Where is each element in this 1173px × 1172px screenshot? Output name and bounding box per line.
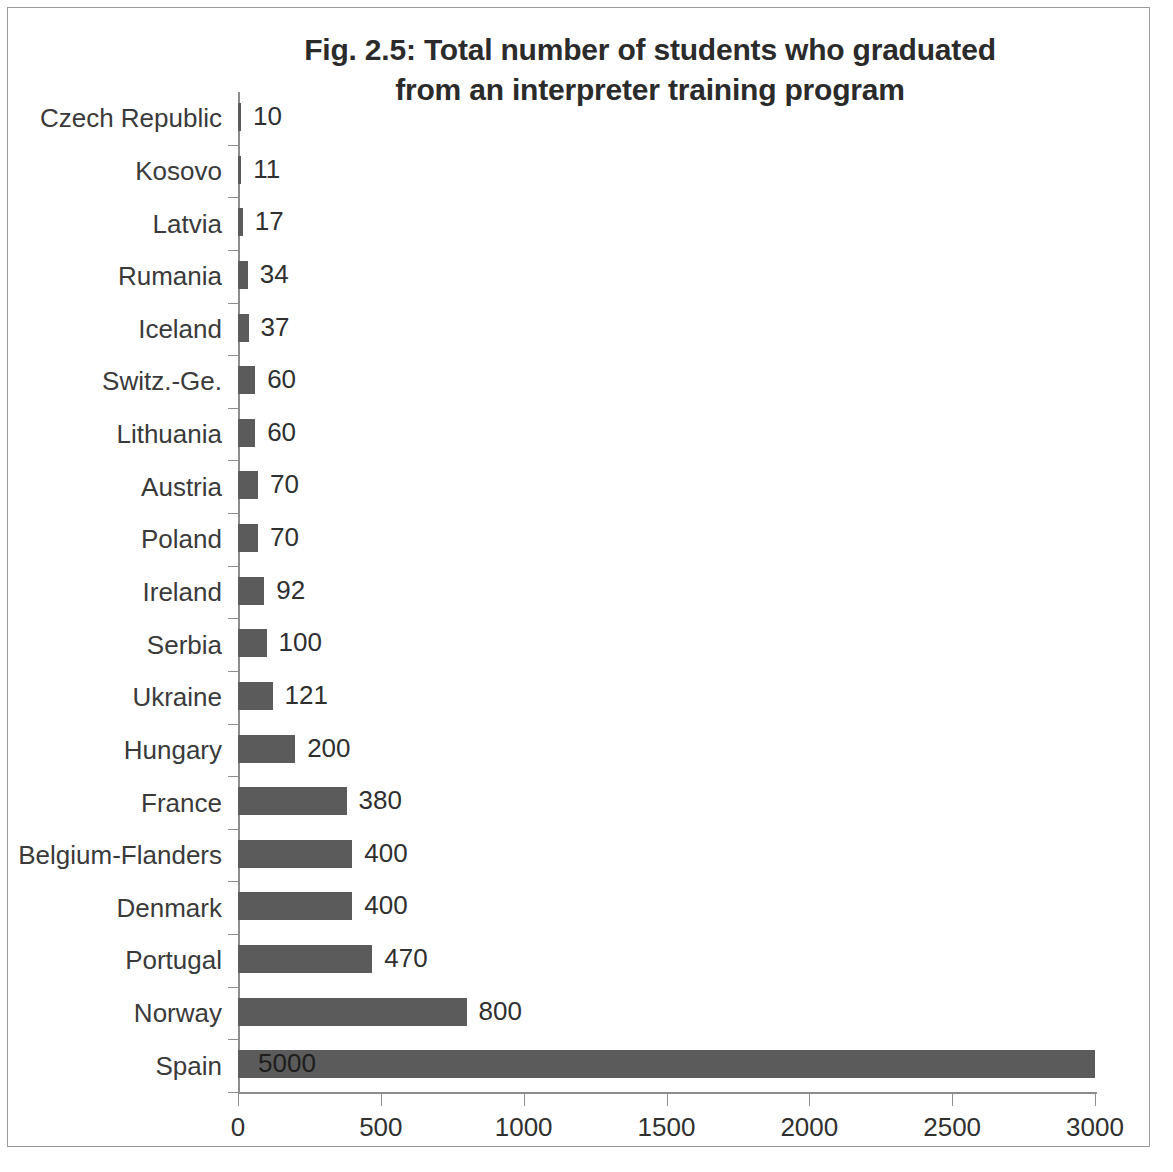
category-label: Portugal xyxy=(125,944,222,976)
bar-value-label: 380 xyxy=(359,784,402,816)
bar-value-label: 37 xyxy=(261,311,290,343)
x-axis-tick-label: 2500 xyxy=(923,1110,981,1144)
x-axis-tick xyxy=(238,1094,239,1106)
bar xyxy=(238,682,273,710)
bar-value-label: 400 xyxy=(364,889,407,921)
x-axis-tick-label: 3000 xyxy=(1066,1110,1124,1144)
category-label: Serbia xyxy=(147,629,222,661)
bar xyxy=(238,366,255,394)
x-axis-tick xyxy=(809,1094,810,1106)
bar-value-label: 34 xyxy=(260,258,289,290)
category-label: Iceland xyxy=(138,313,222,345)
x-axis-tick-label: 1500 xyxy=(638,1110,696,1144)
bar-row: 60 xyxy=(238,355,1095,405)
bar xyxy=(238,892,352,920)
bar-row: 37 xyxy=(238,303,1095,353)
category-label: Czech Republic xyxy=(40,102,222,134)
bar-value-label: 800 xyxy=(479,995,522,1027)
chart-figure: Fig. 2.5: Total number of students who g… xyxy=(0,0,1173,1172)
bar xyxy=(238,840,352,868)
bar xyxy=(238,524,258,552)
bar-row: 92 xyxy=(238,566,1095,616)
bar xyxy=(238,314,249,342)
bar-row: 10 xyxy=(238,92,1095,142)
bar-row: 380 xyxy=(238,776,1095,826)
x-axis-tick-label: 0 xyxy=(231,1110,245,1144)
x-axis-line xyxy=(238,1092,1097,1094)
bar-value-label: 400 xyxy=(364,837,407,869)
bar-value-label: 470 xyxy=(384,942,427,974)
category-label: Spain xyxy=(156,1050,223,1082)
bar-row: 11 xyxy=(238,145,1095,195)
bar-row: 60 xyxy=(238,408,1095,458)
x-axis-tick xyxy=(381,1094,382,1106)
x-axis-tick-label: 500 xyxy=(359,1110,402,1144)
bar-value-label: 11 xyxy=(253,153,280,185)
bar-value-label: 70 xyxy=(270,468,299,500)
bar-row: 17 xyxy=(238,197,1095,247)
category-label: France xyxy=(141,787,222,819)
bar-row: 200 xyxy=(238,724,1095,774)
category-label: Belgium-Flanders xyxy=(18,839,222,871)
bar xyxy=(238,629,267,657)
bar-row: 100 xyxy=(238,618,1095,668)
bar-row: 121 xyxy=(238,671,1095,721)
bar-value-label: 121 xyxy=(285,679,328,711)
bar-value-label: 92 xyxy=(276,574,305,606)
category-label: Ukraine xyxy=(132,681,222,713)
bar-row: 400 xyxy=(238,829,1095,879)
bar xyxy=(238,1050,1095,1078)
x-axis-tick-label: 2000 xyxy=(780,1110,838,1144)
bar xyxy=(238,945,372,973)
category-label: Hungary xyxy=(124,734,222,766)
bar-row: 70 xyxy=(238,513,1095,563)
bar-row: 470 xyxy=(238,934,1095,984)
bar xyxy=(238,261,248,289)
plot-area: 1011173437606070709210012120038040040047… xyxy=(238,92,1095,1092)
category-label: Poland xyxy=(141,523,222,555)
bar-value-label: 60 xyxy=(267,363,296,395)
x-axis-tick xyxy=(1095,1094,1096,1106)
bar-value-label: 200 xyxy=(307,732,350,764)
y-axis-category-labels: Czech RepublicKosovoLatviaRumaniaIceland… xyxy=(0,92,222,1092)
category-label: Switz.-Ge. xyxy=(102,365,222,397)
category-label: Ireland xyxy=(143,576,223,608)
bar xyxy=(238,787,347,815)
bar xyxy=(238,735,295,763)
category-label: Austria xyxy=(141,471,222,503)
bar-value-label: 5000 xyxy=(258,1047,316,1079)
bar xyxy=(238,208,243,236)
x-axis-tick-label: 1000 xyxy=(495,1110,553,1144)
x-axis-tick xyxy=(524,1094,525,1106)
bar-row: 34 xyxy=(238,250,1095,300)
category-label: Lithuania xyxy=(116,418,222,450)
x-axis-tick xyxy=(952,1094,953,1106)
y-axis-tick xyxy=(228,1092,240,1093)
bar-value-label: 100 xyxy=(279,626,322,658)
x-axis-tick xyxy=(667,1094,668,1106)
bar xyxy=(238,103,241,131)
bar xyxy=(238,577,264,605)
bar xyxy=(238,419,255,447)
category-label: Kosovo xyxy=(135,155,222,187)
bar-row: 70 xyxy=(238,460,1095,510)
bar xyxy=(238,471,258,499)
bar-row: 400 xyxy=(238,881,1095,931)
bar-row: 5000 xyxy=(238,1039,1095,1089)
bar xyxy=(238,156,241,184)
category-label: Denmark xyxy=(117,892,222,924)
bar-value-label: 17 xyxy=(255,205,284,237)
category-label: Latvia xyxy=(153,208,222,240)
bar-value-label: 60 xyxy=(267,416,296,448)
category-label: Norway xyxy=(134,997,222,1029)
chart-title-line-1: Fig. 2.5: Total number of students who g… xyxy=(210,30,1090,70)
category-label: Rumania xyxy=(118,260,222,292)
bar xyxy=(238,998,467,1026)
bar-value-label: 10 xyxy=(253,100,282,132)
bar-value-label: 70 xyxy=(270,521,299,553)
bar-row: 800 xyxy=(238,987,1095,1037)
